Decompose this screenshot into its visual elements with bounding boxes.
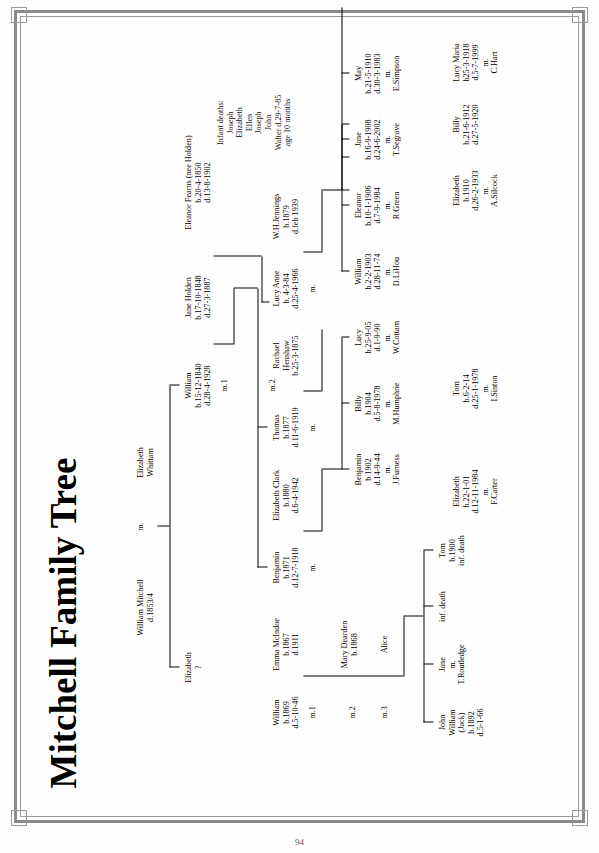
connector-v-w1869-c4 — [423, 549, 433, 550]
person-elizabeth-clark: Elizabeth Clark b.1880 d.6-4-1942 — [271, 469, 300, 520]
person-name: Rachael — [271, 335, 281, 375]
rotated-chart-wrapper: Mitchell Family Tree William Mitchell d.… — [27, 32, 572, 822]
person-william-1903: William b.2-2-1903 d.28-11-74 m. D.LiHou — [353, 253, 401, 289]
marriage-mark: m. — [382, 320, 392, 353]
family-tree-canvas: Mitchell Family Tree William Mitchell d.… — [27, 32, 572, 822]
marriage-mark-wm: m. — [135, 522, 145, 530]
connector-v-william1869-down — [403, 615, 423, 616]
connector-v-w1869-c1 — [423, 721, 433, 722]
person-death: d.12-11-1984 — [470, 469, 480, 513]
person-name: Benjamin — [271, 547, 281, 587]
person-birth: b25-3-1918 — [461, 43, 471, 81]
person-william-1840: William b.15-12-1840 d.28-4-1928 — [183, 363, 212, 407]
person-birth: b.21-6-1912 — [461, 104, 471, 144]
spouse-name: A.Silcock — [489, 170, 499, 210]
person-surname: Henshaw — [281, 335, 291, 375]
person-alice: Alice — [379, 635, 389, 653]
person-birth: b.1900 — [447, 535, 457, 566]
marriage-mark-3b: m.3 — [379, 706, 389, 719]
person-birth: b.1877 — [281, 407, 291, 447]
person-surname: Whittam — [145, 447, 155, 478]
person-death: d.13-8-1902 — [202, 135, 212, 229]
person-birth: b.1880 — [281, 469, 291, 520]
person-name: Lucy Anne — [271, 268, 281, 308]
person-death: d.1-9-90 — [372, 320, 382, 353]
person-name: Billy — [353, 382, 363, 425]
marriage-mark: m. — [382, 253, 392, 289]
person-name: Mary Dearden — [339, 620, 349, 668]
person-birth: b.2-2-1903 — [363, 253, 373, 289]
connector-h-benjamin-couple — [321, 469, 322, 531]
connector-v-thomas-couple — [303, 390, 321, 391]
spouse-name: F.Carter — [489, 469, 499, 513]
person-name: Elizabeth — [183, 652, 193, 683]
person-death: d.27-5-1920 — [470, 104, 480, 144]
marriage-mark: m. — [382, 382, 392, 425]
connector-h-lucyanne-couple — [321, 190, 322, 252]
connector-v-lucyanne-couple — [303, 251, 321, 252]
person-jane-holden: Jane Holden b.17-10-1848 d.27-3-1887 — [183, 275, 212, 319]
infant-death-item: Ellen — [244, 94, 254, 150]
person-name: Thomas — [271, 407, 281, 447]
person-billy-1904: Billy b.1904 d.5-8-1978 m. M.Humphrie — [353, 382, 401, 425]
person-birth: b.1869 — [281, 696, 291, 728]
connector-v-gen0-right — [169, 384, 179, 385]
person-death: d.6-4-1942 — [290, 469, 300, 520]
person-name: Jane — [437, 644, 447, 684]
person-benjamin-1902: Benjamin b.1902 d.14-9-44 m. J.Furness — [353, 453, 401, 485]
person-name: Benjamin — [353, 453, 363, 485]
person-wh-jennings: W.H.Jennings b.1879 d.feb 1939 — [271, 193, 300, 239]
person-birth: b.1879 — [281, 193, 291, 239]
person-birth: b.25-3-1875 — [290, 335, 300, 375]
person-death: d.25-4-1966 — [290, 268, 300, 308]
person-birth: b.1892 — [466, 708, 476, 736]
marriage-mark: m. — [382, 185, 392, 225]
person-birth: b.25-9-05 — [363, 320, 373, 353]
border-corner-bottom-right — [572, 810, 588, 826]
person-emma-mcindoe: Emma McIndoe b.1867 d.1911 — [271, 618, 300, 671]
person-death: d.5-8-1978 — [372, 382, 382, 425]
person-mary-dearden: Mary Dearden b.1868 — [339, 620, 358, 668]
marriage-mark-thomas: m. — [307, 423, 317, 431]
connector-v-benjamin-couple — [303, 530, 321, 531]
person-death: d.5-10-46 — [290, 696, 300, 728]
connector-v-gen0 — [157, 525, 169, 526]
person-thomas-1877: Thomas b.1877 d.11-6-1919 — [271, 407, 300, 447]
infant-death-item: Joseph — [253, 94, 263, 150]
person-name: Emma McIndoe — [271, 618, 281, 671]
person-death: d.11-6-1919 — [290, 407, 300, 447]
person-birth: b.1904 — [363, 382, 373, 425]
person-lucy-1905: Lucy b.25-9-05 d.1-9-90 m. W.Cottam — [353, 320, 401, 353]
person-name: Tom — [437, 535, 447, 566]
person-name: Eleanor Fearns (nee Holden) — [183, 135, 193, 229]
person-dates: d.1853/4 — [145, 579, 155, 635]
spouse-name: M.Humphrie — [391, 382, 401, 425]
connector-v-thomas-c4 — [341, 72, 349, 73]
person-elizabeth-1901: Elizabeth b.22-1-01 d.12-11-1984 m. F.Ca… — [451, 469, 499, 513]
person-name: Billy — [451, 104, 461, 144]
person-birth: b. 4-3-84 — [281, 268, 291, 308]
infant-death-item: John — [263, 94, 273, 150]
person-may-1910: May b.21-5-1910 d.30-3-1983 m. E.Simpson — [353, 53, 401, 93]
person-birth: b.1871 — [281, 547, 291, 587]
person-name: Lucy — [353, 320, 363, 353]
person-death: d.5-7-1999 — [470, 43, 480, 81]
person-birth: b.1902 — [363, 453, 373, 485]
marriage-mark: m. — [447, 644, 457, 684]
marriage-mark-2b: m.2 — [347, 706, 357, 719]
connector-v-benjamin-c2 — [341, 402, 349, 403]
person-rachael-henshaw: Rachael Henshaw b.25-3-1875 — [271, 335, 300, 375]
person-death: d.14-9-44 — [372, 453, 382, 485]
person-birth: b.10-1-1906 — [363, 185, 373, 225]
marriage-mark-benjamin: m. — [307, 563, 317, 571]
person-billy-1912: Billy b.21-6-1912 d.27-5-1920 — [451, 104, 480, 144]
marriage-mark: m. — [480, 170, 490, 210]
marriage-mark-1b: m.1 — [307, 706, 317, 719]
person-jane-1908: Jane b.16-9-1908 d.24-6-2002 m. T.Segrav… — [353, 119, 401, 159]
infant-death-item: age 10 months — [282, 94, 292, 150]
infant-death-item: Walter d.29-7-85 — [273, 94, 283, 150]
spouse-name: R.Green — [391, 185, 401, 225]
person-name-middle: William — [447, 708, 457, 736]
person-lucy-maria: Lucy Maria b25-3-1918 d.5-7-1999 m. C.Ha… — [451, 43, 499, 81]
person-death: d.28-4-1928 — [202, 363, 212, 407]
